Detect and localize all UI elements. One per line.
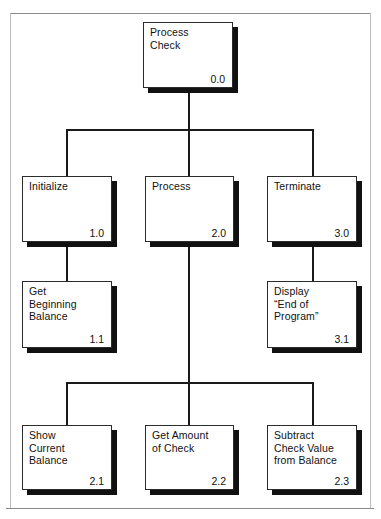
connector-upper-bus bbox=[66, 129, 314, 131]
module-label: Process bbox=[152, 180, 229, 193]
connector-drop-showcurrent bbox=[66, 382, 68, 426]
page-rule-right bbox=[370, 13, 371, 508]
connector-drop-process bbox=[188, 129, 190, 177]
module-number: 2.0 bbox=[211, 227, 226, 239]
module-label: Process Check bbox=[150, 26, 228, 51]
module-box-process-check[interactable]: Process Check 0.0 bbox=[143, 22, 233, 88]
module-number: 2.1 bbox=[89, 475, 104, 487]
connector-initialize-to-getbeginning bbox=[66, 242, 68, 282]
module-label: Get Amount of Check bbox=[152, 429, 229, 454]
connector-terminate-to-display bbox=[312, 242, 314, 282]
module-box-subtract-check-value[interactable]: Subtract Check Value from Balance 2.3 bbox=[267, 425, 357, 490]
module-box-get-beginning-balance[interactable]: Get Beginning Balance 1.1 bbox=[22, 281, 112, 348]
module-number: 2.3 bbox=[334, 475, 349, 487]
module-number: 3.0 bbox=[334, 227, 349, 239]
connector-drop-initialize bbox=[66, 129, 68, 177]
module-number: 1.0 bbox=[89, 227, 104, 239]
module-label: Subtract Check Value from Balance bbox=[274, 429, 352, 467]
connector-drop-getamount bbox=[188, 382, 190, 426]
module-label: Get Beginning Balance bbox=[29, 285, 107, 323]
module-label: Terminate bbox=[274, 180, 352, 193]
connector-lower-bus bbox=[66, 382, 314, 384]
connector-drop-terminate bbox=[312, 129, 314, 177]
structure-chart-page: Process Check 0.0 Initialize 1.0 Process… bbox=[0, 0, 381, 519]
module-box-terminate[interactable]: Terminate 3.0 bbox=[267, 176, 357, 242]
module-box-display-end-of-program[interactable]: Display “End of Program” 3.1 bbox=[267, 281, 357, 348]
page-rule-bottom bbox=[6, 508, 374, 509]
page-rule-top bbox=[10, 13, 370, 14]
module-number: 3.1 bbox=[334, 333, 349, 345]
connector-root-trunk bbox=[188, 88, 190, 131]
page-rule-left bbox=[10, 13, 11, 508]
module-box-get-amount-of-check[interactable]: Get Amount of Check 2.2 bbox=[145, 425, 234, 490]
connector-process-trunk bbox=[188, 242, 190, 384]
module-number: 1.1 bbox=[89, 333, 104, 345]
module-label: Display “End of Program” bbox=[274, 285, 352, 323]
module-label: Initialize bbox=[29, 180, 107, 193]
module-box-show-current-balance[interactable]: Show Current Balance 2.1 bbox=[22, 425, 112, 490]
module-box-initialize[interactable]: Initialize 1.0 bbox=[22, 176, 112, 242]
connector-drop-subtract bbox=[312, 382, 314, 426]
module-box-process[interactable]: Process 2.0 bbox=[145, 176, 234, 242]
module-number: 2.2 bbox=[211, 475, 226, 487]
module-label: Show Current Balance bbox=[29, 429, 107, 467]
module-number: 0.0 bbox=[210, 73, 225, 85]
